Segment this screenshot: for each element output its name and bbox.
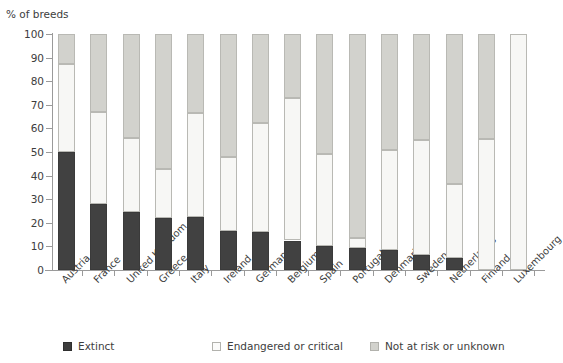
bar-column [252,34,269,270]
y-axis-labels: 0102030405060708090100 [0,0,44,363]
bar-segment [58,152,75,270]
x-axis-tick [308,271,309,276]
y-axis-tick [46,270,52,271]
y-axis-tick [46,176,52,177]
y-axis-tick-label: 90 [2,53,44,64]
bar-segment [478,34,495,139]
bar-column [187,34,204,270]
bar-column [478,34,495,270]
bar-segment [446,34,463,184]
bar-segment [90,204,107,270]
bar-segment [187,34,204,113]
bar-segment [413,140,430,254]
y-axis-tick-label: 40 [2,171,44,182]
bar-segment [446,258,463,270]
bar-segment [284,98,301,241]
x-axis-tick [276,271,277,276]
y-axis-tick-label: 0 [2,265,44,276]
y-axis-tick-label: 50 [2,147,44,158]
bar-segment [58,34,75,64]
y-axis-tick [46,58,52,59]
bar-column [58,34,75,270]
x-axis-tick [502,271,503,276]
bar-segment [252,232,269,270]
legend-item[interactable]: Extinct [63,339,114,353]
x-axis-tick [470,271,471,276]
bar-column [220,34,237,270]
bar-column [316,34,333,270]
bar-segment [381,150,398,250]
bar-segment [510,34,527,270]
bar-column [349,34,366,270]
x-axis-tick [244,271,245,276]
legend-swatch-icon [212,342,221,351]
bar-segment [316,34,333,154]
y-axis-tick-label: 60 [2,123,44,134]
y-axis-tick-label: 100 [2,29,44,40]
legend-swatch-icon [63,342,72,351]
y-axis-tick-label: 70 [2,100,44,111]
bar-column [413,34,430,270]
legend-label: Extinct [78,340,114,352]
bar-segment [413,34,430,140]
x-axis-tick [211,271,212,276]
x-axis-tick [82,271,83,276]
bar-segment [252,34,269,123]
bar-segment [220,157,237,231]
bar-segment [155,34,172,169]
y-axis-tick-label: 10 [2,241,44,252]
y-axis-tick [46,34,52,35]
bar-column [284,34,301,270]
bar-segment [187,217,204,270]
bar-segment [349,34,366,238]
bar-segment [187,113,204,217]
bar-segment [446,184,463,258]
y-axis-tick [46,199,52,200]
legend-label: Endangered or critical [227,340,343,352]
bar-segment [381,34,398,150]
bar-segment [316,246,333,270]
legend-swatch-icon [370,342,379,351]
legend-item[interactable]: Not at risk or unknown [370,339,505,353]
bar-segment [349,248,366,270]
bar-segment [58,64,75,153]
bar-segment [220,231,237,270]
bar-column [123,34,140,270]
bar-segment [155,169,172,219]
bar-segment [252,123,269,233]
chart-legend: ExtinctEndangered or criticalNot at risk… [0,339,562,359]
y-axis-tick [46,128,52,129]
bar-segment [155,218,172,270]
y-axis-tick-label: 80 [2,76,44,87]
bar-segment [381,250,398,270]
x-axis-tick [114,271,115,276]
bar-segment [284,241,301,271]
bar-column [446,34,463,270]
y-axis-tick [46,105,52,106]
x-axis-tick [534,271,535,276]
bar-segment [349,238,366,247]
x-axis-tick [179,271,180,276]
y-axis-tick [46,246,52,247]
bar-segment [284,34,301,98]
y-axis-tick-label: 30 [2,194,44,205]
bar-column [381,34,398,270]
x-axis-tick [405,271,406,276]
bar-segment [220,34,237,157]
bar-column [90,34,107,270]
x-axis-tick [373,271,374,276]
x-axis-tick [437,271,438,276]
bar-segment [413,255,430,270]
bar-segment [316,154,333,246]
bar-segment [123,34,140,138]
y-axis-tick [46,81,52,82]
bar-segment [90,34,107,112]
y-axis-tick [46,152,52,153]
y-axis-tick-label: 20 [2,218,44,229]
legend-item[interactable]: Endangered or critical [212,339,343,353]
x-axis-tick [147,271,148,276]
bar-segment [123,138,140,212]
legend-label: Not at risk or unknown [385,340,505,352]
bar-segment [478,139,495,270]
